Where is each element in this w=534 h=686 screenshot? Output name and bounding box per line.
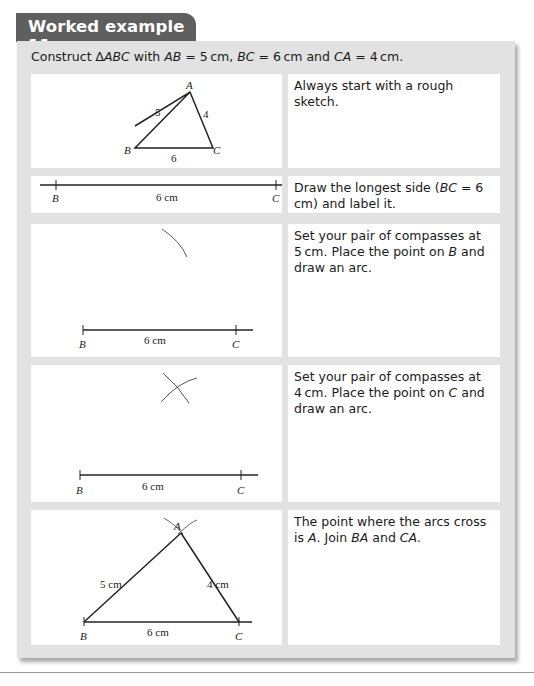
step-3-instruction: Set your pair of compasses at 5 cm. Plac… — [288, 224, 500, 357]
svg-text:C: C — [272, 192, 280, 204]
svg-text:A: A — [185, 79, 193, 91]
svg-text:4: 4 — [203, 108, 209, 120]
step-5-instruction: The point where the arcs cross is A. Joi… — [288, 510, 500, 645]
svg-text:6 cm: 6 cm — [144, 334, 166, 346]
step-1-figure: A B C 5 4 6 — [31, 74, 282, 168]
svg-text:B: B — [76, 484, 83, 496]
arc-from-b: B 6 cm C — [31, 224, 282, 357]
svg-text:C: C — [235, 630, 243, 642]
svg-text:B: B — [80, 630, 87, 642]
svg-text:C: C — [232, 338, 240, 350]
svg-text:6: 6 — [171, 152, 177, 164]
step-2-instruction: Draw the longest side (BC = 6 cm) and la… — [288, 176, 500, 213]
problem-statement: Construct ∆ABC with AB = 5 cm, BC = 6 cm… — [31, 49, 403, 64]
svg-text:B: B — [124, 144, 131, 156]
step-1-instruction: Always start with a rough sketch. — [288, 74, 500, 168]
svg-text:6 cm: 6 cm — [147, 626, 169, 638]
line-bc-6cm: B 6 cm C — [31, 176, 282, 213]
step-5-figure: A B C 5 cm 4 cm 6 cm — [31, 510, 282, 645]
svg-text:C: C — [237, 484, 245, 496]
step-5-text: The point where the arcs cross is A. Joi… — [294, 514, 494, 546]
step-2-figure: B 6 cm C — [31, 176, 282, 213]
svg-text:6 cm: 6 cm — [156, 191, 178, 203]
svg-text:6 cm: 6 cm — [142, 480, 164, 492]
step-1-text: Always start with a rough sketch. — [294, 78, 494, 110]
svg-text:B: B — [52, 192, 59, 204]
step-3-figure: B 6 cm C — [31, 224, 282, 357]
svg-text:5 cm: 5 cm — [100, 578, 122, 590]
step-2-text: Draw the longest side (BC = 6 cm) and la… — [294, 180, 494, 212]
svg-text:A: A — [173, 520, 181, 532]
step-4-figure: B 6 cm C — [31, 365, 282, 502]
svg-text:B: B — [79, 338, 86, 350]
arcs-crossing: B 6 cm C — [31, 365, 282, 502]
svg-text:C: C — [213, 144, 221, 156]
svg-text:4 cm: 4 cm — [207, 578, 229, 590]
svg-text:5: 5 — [155, 106, 161, 118]
completed-triangle: A B C 5 cm 4 cm 6 cm — [31, 510, 282, 645]
page-divider — [0, 672, 534, 673]
step-3-text: Set your pair of compasses at 5 cm. Plac… — [294, 228, 494, 276]
rough-sketch-triangle: A B C 5 4 6 — [31, 74, 282, 168]
worked-example-panel: Construct ∆ABC with AB = 5 cm, BC = 6 cm… — [17, 41, 515, 658]
step-4-instruction: Set your pair of compasses at 4 cm. Plac… — [288, 365, 500, 502]
step-4-text: Set your pair of compasses at 4 cm. Plac… — [294, 369, 494, 417]
worked-example-tab: Worked example 11 — [16, 13, 196, 42]
